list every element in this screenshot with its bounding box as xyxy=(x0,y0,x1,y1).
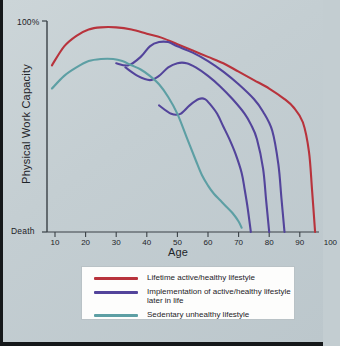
chart-legend: Lifetime active/healthy lifestyle Implem… xyxy=(81,266,295,320)
legend-swatch-teal xyxy=(94,314,138,317)
x-axis-ticks xyxy=(55,232,326,237)
legend-swatch-purple xyxy=(94,291,138,294)
x-tick-label-100: 100 xyxy=(320,238,340,247)
x-tick-label-40: 40 xyxy=(137,238,157,247)
legend-label-sedentary: Sedentary unhealthy lifestyle xyxy=(147,309,249,320)
x-tick-label-80: 80 xyxy=(259,238,279,247)
chart-curves xyxy=(52,27,315,232)
legend-swatch-red xyxy=(94,277,138,280)
x-tick-label-10: 10 xyxy=(45,238,65,247)
x-tick-label-70: 70 xyxy=(229,238,249,247)
y-axis-title: Physical Work Capacity xyxy=(20,54,32,194)
x-tick-label-50: 50 xyxy=(167,238,187,247)
legend-item-lifetime-active: Lifetime active/healthy lifestyle xyxy=(82,272,294,283)
x-axis-title: Age xyxy=(143,246,213,258)
legend-item-implementation-later: Implementation of active/healthy lifesty… xyxy=(82,286,294,306)
y-axis-bottom-label: Death xyxy=(11,226,35,236)
legend-label-lifetime-active: Lifetime active/healthy lifestyle xyxy=(147,272,255,283)
y-axis-top-label: 100% xyxy=(17,17,40,27)
x-tick-label-60: 60 xyxy=(198,238,218,247)
x-tick-label-30: 30 xyxy=(106,238,126,247)
x-tick-label-20: 20 xyxy=(76,238,96,247)
chart-series-4 xyxy=(52,59,242,228)
x-tick-label-90: 90 xyxy=(290,238,310,247)
legend-label-implementation-later: Implementation of active/healthy lifesty… xyxy=(147,286,294,306)
legend-item-sedentary: Sedentary unhealthy lifestyle xyxy=(82,309,294,320)
chart-series-3 xyxy=(159,98,251,232)
